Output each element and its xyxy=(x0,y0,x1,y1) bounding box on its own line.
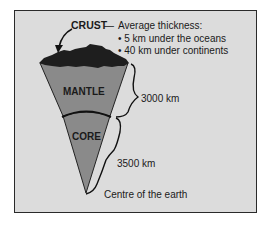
crust-region xyxy=(39,44,129,68)
bullet-text: 5 km under the oceans xyxy=(124,33,226,44)
mantle-thickness: 3000 km xyxy=(141,93,179,104)
crust-label: CRUST xyxy=(71,20,107,31)
callout-dash: — xyxy=(104,20,114,31)
mantle-label: MANTLE xyxy=(63,86,105,97)
bullet-oceans: • 5 km under the oceans xyxy=(118,33,226,44)
bullet-continents: • 40 km under continents xyxy=(118,45,228,56)
thickness-heading: Average thickness: xyxy=(118,20,202,31)
core-label: CORE xyxy=(72,131,101,142)
core-region xyxy=(63,112,110,193)
crust-arrow xyxy=(59,29,72,47)
bullet-text: 40 km under continents xyxy=(124,45,228,56)
centre-label: Centre of the earth xyxy=(104,189,187,200)
core-thickness: 3500 km xyxy=(117,158,155,169)
